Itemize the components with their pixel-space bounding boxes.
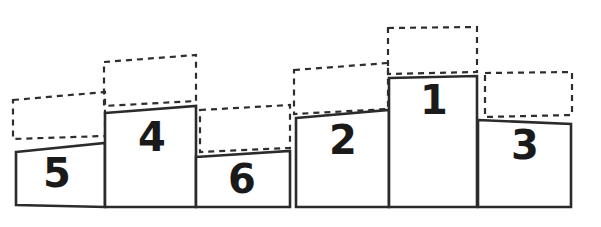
rank-label-3: 3 (511, 122, 539, 168)
podium-block-1[interactable]: 1 (389, 76, 477, 207)
rank-label-6: 6 (228, 156, 256, 202)
rank-label-4: 4 (138, 114, 166, 160)
podium-diagram-canvas: 546213 (0, 0, 601, 227)
rank-label-1: 1 (420, 77, 448, 123)
podium-block-4[interactable]: 4 (105, 106, 196, 207)
rank-label-2: 2 (329, 117, 357, 163)
rank-label-5: 5 (43, 150, 71, 196)
podium-block-3[interactable]: 3 (478, 120, 571, 207)
podium-block-6[interactable]: 6 (196, 151, 290, 207)
podium-block-5[interactable]: 5 (16, 143, 105, 207)
podium-block-2[interactable]: 2 (296, 110, 389, 207)
podium-diagram: 546213 (0, 0, 601, 227)
